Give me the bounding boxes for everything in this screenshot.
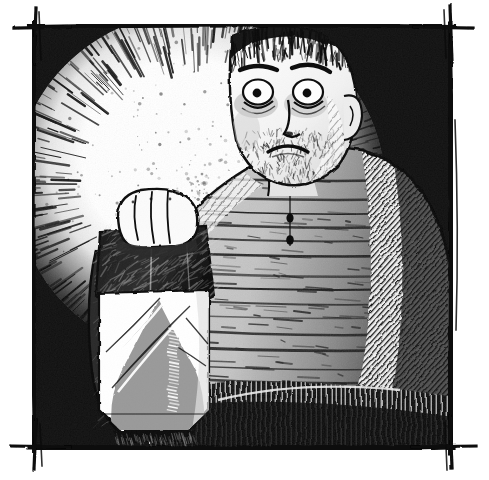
framed-scene xyxy=(0,0,470,480)
illustration-canvas: Man holding a paper bag pen-and-ink cros… xyxy=(0,0,489,480)
ink-illustration xyxy=(0,0,489,480)
